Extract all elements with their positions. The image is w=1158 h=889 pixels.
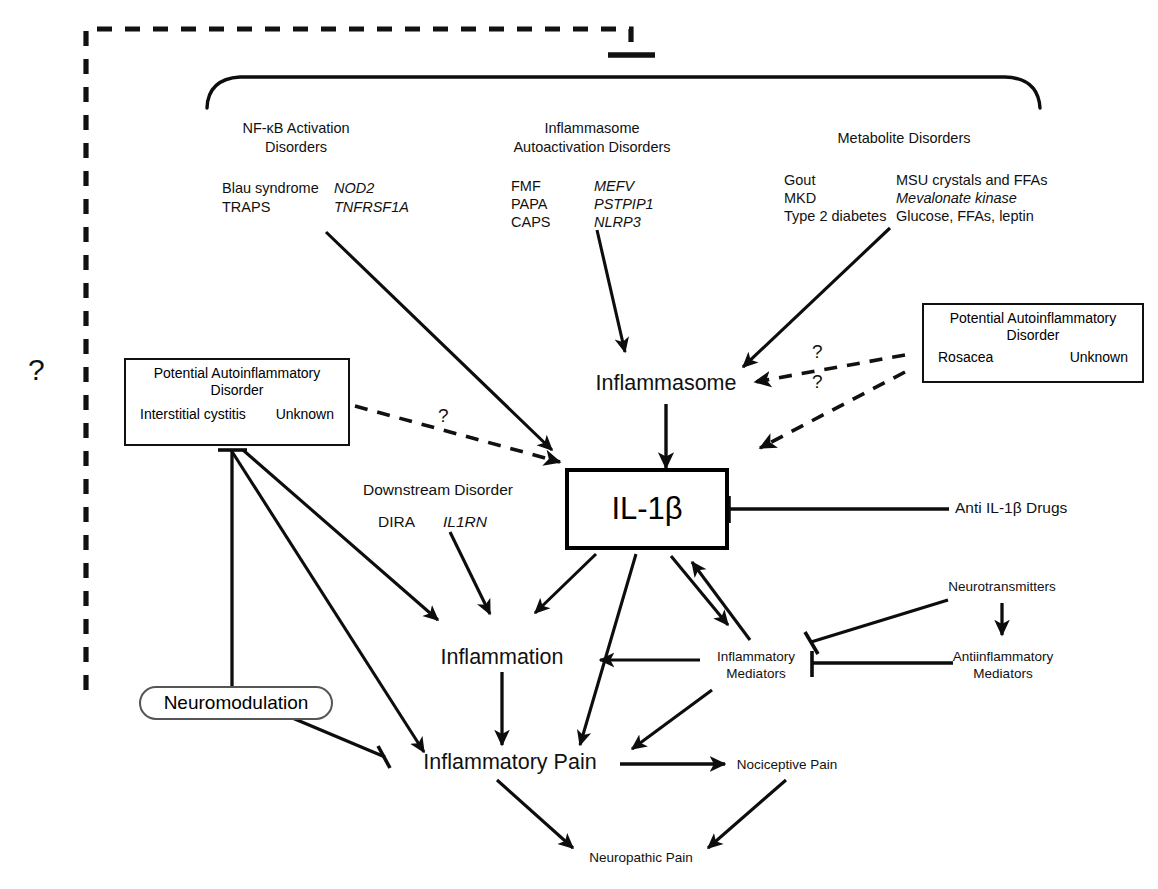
node-inflammation: Inflammation	[440, 645, 563, 670]
potential-disorder-cystitis-left: Interstitial cystitis	[140, 406, 246, 422]
inhibitor-antiinflammatory-to-inflammatory	[812, 651, 953, 677]
group-metabolite-gene-1: Mevalonate kinase	[896, 190, 1017, 207]
inhibitor-anti-il1b-drugs	[729, 496, 949, 523]
dashed-arrow-rosacea-to-il1b	[760, 372, 905, 448]
potential-disorder-cystitis-title: Potential Autoinflammatory Disorder	[126, 360, 348, 399]
group-nfkb-gene-1: TNFRSF1A	[334, 199, 409, 216]
potential-disorder-rosacea-right: Unknown	[1070, 349, 1128, 365]
potential-disorder-box-rosacea: Potential Autoinflammatory Disorder Rosa…	[922, 303, 1144, 383]
group-inflammasome-gene-1: PSTPIP1	[594, 196, 654, 213]
group-nfkb-title-line2: Disorders	[265, 139, 327, 156]
arrow-cystitis-to-inflammation	[243, 450, 438, 620]
node-antiinflammatory-mediators-line2: Mediators	[973, 666, 1032, 682]
potential-disorder-cystitis-title-line1: Potential Autoinflammatory	[126, 365, 348, 382]
arrow-il1b-to-inflammation	[535, 554, 596, 613]
node-neuropathic-pain: Neuropathic Pain	[589, 850, 693, 866]
node-inflammasome: Inflammasome	[596, 371, 737, 396]
node-anti-il1b-drugs: Anti IL-1β Drugs	[955, 499, 1067, 517]
potential-disorder-rosacea-title-line2: Disorder	[924, 327, 1142, 344]
pathway-diagram: ? NF-κB Activation Disorders Blau syndro…	[0, 0, 1158, 889]
node-il1b-box: IL-1β	[565, 468, 729, 550]
group-nfkb-disease-0: Blau syndrome	[222, 180, 319, 197]
arrow-inflammatory-mediators-to-il1b	[692, 562, 750, 640]
node-neuromodulation-label: Neuromodulation	[164, 692, 309, 714]
question-mark-rosacea-upper: ?	[812, 341, 823, 363]
potential-disorder-rosacea-title-line1: Potential Autoinflammatory	[924, 310, 1142, 327]
group-inflammasome-title-line2: Autoactivation Disorders	[513, 139, 670, 156]
group-nfkb-disease-1: TRAPS	[222, 199, 270, 216]
arrow-mediators-to-inflammatory-pain	[632, 690, 712, 749]
potential-disorder-cystitis-title-line2: Disorder	[126, 382, 348, 399]
group-downstream-disease: DIRA	[378, 513, 415, 531]
group-inflammasome-gene-2: NLRP3	[594, 214, 641, 231]
group-inflammasome-disease-0: FMF	[511, 178, 541, 195]
group-inflammasome-disease-1: PAPA	[511, 196, 548, 213]
arrow-il1b-to-inflammatory-pain	[580, 554, 636, 745]
group-metabolite-title-line1: Metabolite Disorders	[838, 130, 971, 147]
group-metabolite-disease-2: Type 2 diabetes	[784, 208, 886, 225]
group-brace	[207, 77, 1040, 108]
potential-disorder-rosacea-title: Potential Autoinflammatory Disorder	[924, 305, 1142, 344]
potential-disorder-rosacea-left: Rosacea	[938, 349, 993, 365]
group-inflammasome-gene-0: MEFV	[594, 178, 634, 195]
dashed-arrow-rosacea-to-inflammasome	[755, 355, 905, 382]
dashed-arrow-cystitis-to-il1b	[355, 406, 560, 462]
potential-disorder-box-cystitis: Potential Autoinflammatory Disorder Inte…	[124, 358, 350, 446]
group-metabolite-disease-1: MKD	[784, 190, 816, 207]
group-metabolite-gene-0: MSU crystals and FFAs	[896, 172, 1047, 189]
group-nfkb-gene-0: NOD2	[334, 180, 374, 197]
node-antiinflammatory-mediators-line1: Antiinflammatory	[953, 649, 1054, 665]
potential-disorder-cystitis-row: Interstitial cystitis Unknown	[126, 399, 348, 422]
inhibitor-neuromodulation-to-cystitis	[218, 450, 247, 686]
group-downstream-title: Downstream Disorder	[363, 481, 513, 499]
arrow-nociceptive-to-neuropathic	[708, 780, 786, 848]
node-il1b-label: IL-1β	[611, 491, 682, 527]
arrow-inflammasome-disorders-to-inflammasome	[597, 230, 625, 352]
node-inflammatory-pain: Inflammatory Pain	[423, 750, 596, 775]
group-nfkb-title-line1: NF-κB Activation	[242, 120, 349, 137]
group-metabolite-disease-0: Gout	[784, 172, 815, 189]
node-inflammatory-mediators-line1: Inflammatory	[717, 649, 795, 665]
group-inflammasome-title-line1: Inflammasome	[544, 120, 639, 137]
question-mark-cystitis-link: ?	[438, 405, 449, 427]
arrow-il1b-to-inflammatory-mediators	[671, 556, 728, 625]
question-mark-rosacea-lower: ?	[812, 371, 823, 393]
potential-disorder-cystitis-right: Unknown	[276, 406, 334, 422]
outer-question-mark: ?	[28, 352, 45, 387]
potential-disorder-rosacea-row: Rosacea Unknown	[924, 344, 1142, 365]
node-neurotransmitters: Neurotransmitters	[948, 579, 1055, 595]
node-neuromodulation: Neuromodulation	[139, 686, 333, 720]
node-nociceptive-pain: Nociceptive Pain	[737, 757, 838, 773]
group-inflammasome-disease-2: CAPS	[511, 214, 551, 231]
arrow-inflammatory-to-neuropathic	[497, 780, 573, 848]
group-downstream-gene: IL1RN	[443, 513, 487, 531]
group-metabolite-gene-2: Glucose, FFAs, leptin	[896, 208, 1034, 225]
node-inflammatory-mediators-line2: Mediators	[726, 666, 785, 682]
arrow-downstream-to-inflammation	[450, 532, 490, 614]
inhibitor-neurotransmitters-to-mediators	[805, 600, 948, 654]
